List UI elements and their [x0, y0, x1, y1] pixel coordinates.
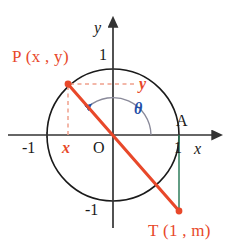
point-T-label: T (1 , m): [148, 222, 211, 239]
segment-x-label: x: [62, 140, 70, 156]
unit-circle-figure: y 1 -1 -1 1 x O A P (x , y) T (1 , m) x …: [0, 0, 233, 250]
point-T-marker: [176, 208, 183, 215]
x-tick-label-minus-one: -1: [22, 140, 35, 156]
y-tick-label-one: 1: [99, 47, 107, 63]
angle-theta-label: θ: [134, 101, 142, 117]
terminal-ray: [67, 83, 180, 212]
y-tick-label-minus-one: -1: [85, 202, 98, 218]
x-axis-label: x: [194, 141, 201, 157]
y-axis-label: y: [94, 20, 101, 36]
segment-y-label: y: [139, 76, 146, 92]
point-P-label: P (x , y): [12, 48, 69, 65]
point-P-marker: [65, 81, 72, 88]
x-tick-label-one: 1: [174, 140, 182, 156]
figure-canvas: [0, 0, 233, 250]
point-A-label: A: [176, 113, 188, 129]
origin-label: O: [93, 140, 105, 156]
